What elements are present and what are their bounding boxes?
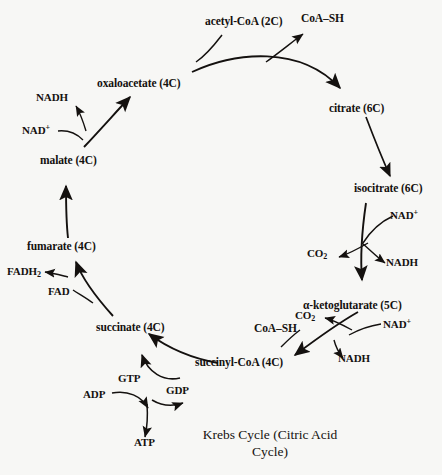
- arrow-malate-to-oxaloacetate: [84, 97, 130, 147]
- label-citrate: citrate (6C): [329, 103, 384, 115]
- arrow-nadh-out-isocitrate: [362, 243, 385, 263]
- arrow-nad-in-malate: [58, 131, 83, 140]
- label-coa-sh-bottom: CoA–SH: [254, 323, 297, 335]
- nad-text: NAD: [383, 318, 407, 330]
- nad-plus-sign: +: [407, 317, 411, 326]
- label-succinate: succinate (4C): [96, 322, 165, 334]
- co2-subscript: 2: [311, 314, 315, 323]
- label-adp: ADP: [83, 389, 105, 400]
- caption-line-2: Cycle): [252, 444, 288, 459]
- label-isocitrate: isocitrate (6C): [354, 183, 422, 195]
- label-nadh-ketoglutarate-step: NADH: [338, 353, 370, 364]
- co2-subscript: 2: [323, 252, 327, 261]
- label-succinyl-coa: succinyl-CoA (4C): [195, 357, 283, 369]
- cycle-arrows-layer: [0, 0, 442, 475]
- co2-text: CO: [307, 247, 323, 259]
- label-nadh-malate-step: NADH: [36, 92, 68, 103]
- krebs-cycle-diagram: acetyl-CoA (2C) CoA–SH citrate (6C) isoc…: [0, 0, 442, 475]
- arrow-citrate-to-isocitrate: [366, 117, 390, 176]
- arrow-gdp-to-gtp: [142, 355, 180, 379]
- arrow-fad-in: [73, 290, 93, 303]
- nad-text: NAD: [390, 209, 414, 221]
- nad-text: NAD: [22, 124, 46, 136]
- label-nad-plus-ketoglutarate-step: NAD+: [383, 318, 411, 330]
- arrow-nad-in-isocitrate: [363, 216, 393, 243]
- label-alpha-ketoglutarate: α-ketoglutarate (5C): [303, 300, 402, 312]
- label-coa-sh-top: CoA–SH: [301, 13, 344, 25]
- nad-plus-sign: +: [46, 123, 50, 132]
- label-fumarate: fumarate (4C): [27, 241, 96, 253]
- label-co2-isocitrate-step: CO2: [307, 248, 327, 261]
- label-oxaloacetate: oxaloacetate (4C): [97, 78, 181, 90]
- arrow-acetyl-coa-in: [196, 35, 222, 62]
- fadh2-subscript: 2: [37, 270, 41, 279]
- label-gtp: GTP: [118, 373, 140, 384]
- arrow-oxaloacetate-to-citrate: [192, 56, 340, 88]
- arrow-fumarate-to-malate: [66, 186, 68, 238]
- arrow-to-atp: [145, 404, 147, 437]
- label-nad-plus-malate-step: NAD+: [22, 124, 50, 136]
- label-nadh-isocitrate-step: NADH: [386, 257, 418, 268]
- diagram-caption: Krebs Cycle (Citric Acid Cycle): [175, 427, 365, 461]
- co2-text: CO: [295, 309, 311, 321]
- arrow-gtp-to-gdp: [152, 400, 183, 405]
- fadh-text: FADH: [7, 265, 37, 277]
- label-gdp: GDP: [166, 385, 189, 396]
- nad-plus-sign: +: [414, 208, 418, 217]
- label-acetyl-coa: acetyl-CoA (2C): [205, 16, 282, 28]
- label-nad-plus-isocitrate-step: NAD+: [390, 209, 418, 221]
- arrow-nad-in-ketoglutarate: [349, 324, 381, 335]
- label-fadh2: FADH2: [7, 266, 41, 279]
- arrow-adp-to-atp: [112, 392, 148, 408]
- label-malate: malate (4C): [40, 155, 97, 167]
- arrow-nadh-out-malate: [76, 106, 86, 131]
- label-fad: FAD: [48, 286, 70, 297]
- label-atp: ATP: [134, 437, 155, 448]
- label-co2-ketoglutarate-step: CO2: [295, 310, 315, 323]
- arrow-succinate-to-fumarate: [76, 262, 113, 316]
- caption-line-1: Krebs Cycle (Citric Acid: [203, 427, 338, 442]
- arrow-fadh2-out: [45, 272, 68, 277]
